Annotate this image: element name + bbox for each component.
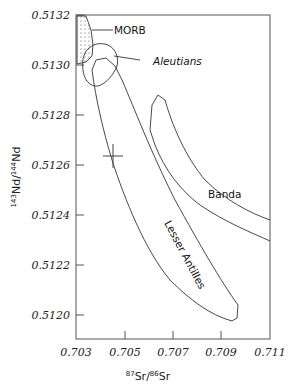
x-tick-label: 0.709 bbox=[205, 346, 237, 359]
y-axis-title: 143Nd/144Nd bbox=[10, 147, 23, 208]
morb-label: MORB bbox=[114, 24, 146, 36]
y-tick-label: 0.5132 bbox=[32, 9, 71, 22]
banda-label: Banda bbox=[208, 188, 241, 200]
x-axis-tick-labels: 0.703 0.705 0.707 0.709 0.711 bbox=[60, 346, 286, 359]
y-tick-label: 0.5122 bbox=[32, 259, 71, 272]
y-tick-label: 0.5126 bbox=[32, 159, 71, 172]
y-tick-label: 0.5128 bbox=[32, 109, 71, 122]
x-tick-label: 0.703 bbox=[60, 346, 92, 359]
x-tick-label: 0.711 bbox=[254, 346, 286, 359]
y-tick-label: 0.5120 bbox=[32, 309, 71, 322]
y-tick-label: 0.5130 bbox=[32, 59, 71, 72]
x-axis-title: 87Sr/86Sr bbox=[126, 370, 171, 383]
morb-field bbox=[77, 16, 93, 64]
x-tick-label: 0.705 bbox=[109, 346, 141, 359]
isotope-chart: 0.5132 0.5130 0.5128 0.5126 0.5124 0.512… bbox=[0, 0, 291, 388]
y-axis-tick-labels: 0.5132 0.5130 0.5128 0.5126 0.5124 0.512… bbox=[32, 9, 71, 322]
x-tick-label: 0.707 bbox=[157, 346, 189, 359]
y-tick-label: 0.5124 bbox=[32, 209, 71, 222]
banda-field bbox=[150, 95, 270, 241]
aleutians-label: Aleutians bbox=[152, 55, 202, 67]
x-axis-ticks bbox=[125, 331, 221, 339]
lesser-antilles-label: Lesser Antilles bbox=[162, 218, 208, 291]
error-cross bbox=[103, 144, 123, 168]
